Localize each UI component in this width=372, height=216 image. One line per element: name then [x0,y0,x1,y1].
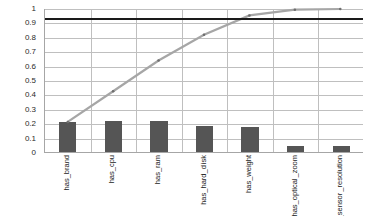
x-tick-label-line: has_hard_d [200,165,209,205]
x-tick-label-line: has_sensor [336,193,345,216]
x-tick-label-line: _zoom [291,155,300,178]
y-tick-label: 1 [32,5,36,13]
data-point-marker [112,90,115,93]
x-tick-label-line: has_weight [245,155,254,193]
data-point-marker [248,14,251,17]
y-tick-label: 0 [32,149,36,157]
y-tick-label: 0.5 [25,77,36,85]
y-tick-label: 0.9 [25,19,36,27]
data-point-marker [339,8,342,11]
y-tick-label: 0.1 [25,135,36,143]
x-axis: has_brandhas_cpuhas_ramhas_hard_diskhas_… [44,155,363,216]
series-line [68,9,341,122]
x-tick-label-line: has_brand [63,155,72,190]
y-tick-label: 0.4 [25,91,36,99]
x-tick-label-line: isk [200,155,209,164]
y-tick-label: 0.8 [25,34,36,42]
x-tick-label-line: has_ram [154,155,163,184]
x-tick-label-line: _resolution [336,155,345,192]
y-axis: 00.10.20.30.40.50.60.70.80.91 [0,0,42,160]
data-point-marker [294,8,297,11]
pareto-chart: 00.10.20.30.40.50.60.70.80.91 has_brandh… [0,0,372,216]
plot-area [44,9,363,153]
x-tick-label-line: has_cpu [108,155,117,183]
y-tick-label: 0.7 [25,48,36,56]
y-tick-label: 0.2 [25,120,36,128]
line-series [45,9,363,152]
data-point-marker [203,33,206,36]
y-tick-label: 0.3 [25,106,36,114]
x-tick-label-line: has_optical [291,179,300,216]
data-point-marker [66,121,69,124]
data-point-marker [157,59,160,62]
y-tick-label: 0.6 [25,63,36,71]
